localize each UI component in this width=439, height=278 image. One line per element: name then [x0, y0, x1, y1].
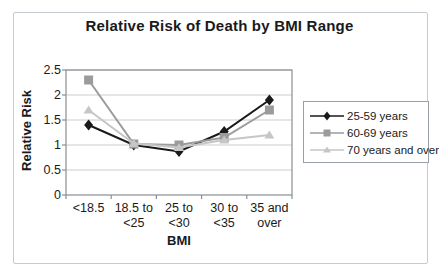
y-tick-label: 1.5: [27, 112, 61, 128]
legend-marker-sample: [309, 127, 345, 139]
plot-border: [66, 70, 292, 195]
y-tick-label: 2.5: [27, 62, 61, 78]
legend-label: 70 years and over: [347, 144, 439, 156]
legend-label: 25-59 years: [347, 110, 408, 122]
y-tick-label: 1: [27, 137, 61, 153]
square-marker: [265, 106, 274, 115]
legend: 25-59 years60-69 years70 years and over: [303, 101, 429, 163]
series-line: [89, 80, 270, 145]
legend-label: 60-69 years: [347, 127, 408, 139]
legend-entry: 25-59 years: [309, 107, 426, 124]
legend-marker-sample: [309, 144, 345, 156]
square-marker: [324, 129, 331, 136]
triangle-marker: [84, 106, 94, 114]
y-tick-label: 0: [27, 187, 61, 203]
y-tick-label: 2: [27, 87, 61, 103]
legend-entry: 60-69 years: [309, 124, 426, 141]
y-tick-label: 0.5: [27, 162, 61, 178]
legend-marker-sample: [309, 110, 345, 122]
diamond-marker: [324, 111, 331, 120]
x-axis-title: BMI: [139, 233, 219, 248]
diamond-marker: [265, 95, 274, 106]
chart-title: Relative Risk of Death by BMI Range: [20, 17, 419, 34]
legend-entry: 70 years and over: [309, 141, 426, 158]
x-category-label: 35 and over: [241, 201, 297, 231]
square-marker: [84, 76, 93, 85]
diamond-marker: [84, 120, 93, 131]
chart: Relative Risk of Death by BMI Range Rela…: [0, 0, 439, 278]
